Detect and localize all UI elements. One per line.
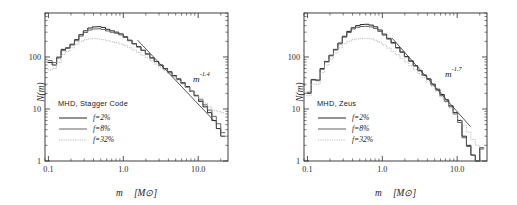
legend-swatch-f2-left [58,115,88,121]
svg-text:100: 100 [288,53,300,62]
panel-right: 0.11.010.0 110100 N(m) m [M⊙] m-1.7 MHD,… [259,0,517,205]
legend-swatch-f8-left [58,126,88,132]
x-tick-labels-left: 0.11.010.0 [43,165,205,174]
legend-item-f2-right: f=2% [317,112,373,123]
legend-item-f2-left: f=2% [58,112,128,123]
svg-text:0.1: 0.1 [43,165,53,174]
x-axis-title-left: m [M⊙] [45,182,228,200]
x-axis-title-right: m [M⊙] [304,182,487,200]
svg-text:1: 1 [296,157,300,166]
figure-root: 0.11.010.0 110100 N(m) m [M⊙] m-1.4 MHD,… [0,0,517,205]
legend-item-f32-left: f=32% [58,134,128,145]
svg-text:1.0: 1.0 [118,165,128,174]
svg-text:10.0: 10.0 [191,165,205,174]
svg-text:10.0: 10.0 [450,165,464,174]
svg-text:0.1: 0.1 [302,165,312,174]
svg-text:1.0: 1.0 [377,165,387,174]
legend-swatch-f32-left [58,137,88,143]
legend-left: MHD, Stagger Code f=2% f=8% f=32% [58,99,128,145]
legend-item-f8-left: f=8% [58,123,128,134]
legend-right: MHD, Zeus f=2% f=8% f=32% [317,99,373,145]
legend-title-left: MHD, Stagger Code [58,99,128,108]
legend-item-f8-right: f=8% [317,123,373,134]
x-tick-labels-right: 0.11.010.0 [302,165,464,174]
powerlaw-label-right: m-1.7 [445,63,462,81]
legend-item-f32-right: f=32% [317,134,373,145]
svg-text:100: 100 [29,53,41,62]
svg-text:1: 1 [37,157,41,166]
legend-swatch-f2-right [317,115,347,121]
legend-swatch-f8-right [317,126,347,132]
panel-left: 0.11.010.0 110100 N(m) m [M⊙] m-1.4 MHD,… [0,0,258,205]
powerlaw-label-left: m-1.4 [193,68,210,86]
powerlaw-fit-right [392,38,470,126]
legend-title-right: MHD, Zeus [317,99,373,108]
legend-swatch-f32-right [317,137,347,143]
